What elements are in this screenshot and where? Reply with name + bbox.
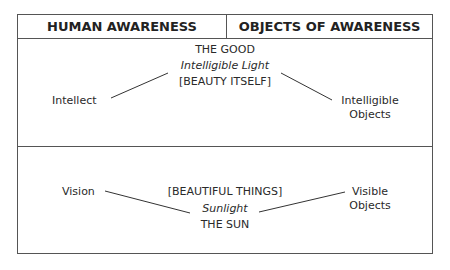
beautiful-things-label: [BEAUTIFUL THINGS]: [160, 185, 290, 199]
visible-objects-line2: Objects: [340, 199, 400, 213]
sunlight-label: Sunlight: [185, 202, 265, 216]
intellect-label: Intellect: [52, 94, 112, 108]
header-objects-of-awareness: OBJECTS OF AWARENESS: [227, 15, 432, 39]
section-divider: [18, 146, 432, 147]
vision-label: Vision: [62, 185, 107, 199]
the-sun-label: THE SUN: [185, 218, 265, 232]
beauty-itself-label: [BEAUTY ITSELF]: [165, 75, 285, 89]
intelligible-objects-line2: Objects: [330, 108, 410, 122]
header-human-awareness: HUMAN AWARENESS: [18, 15, 227, 39]
visible-objects-line1: Visible: [340, 185, 400, 199]
intelligible-light-label: Intelligible Light: [165, 59, 285, 73]
the-good-label: THE GOOD: [175, 43, 275, 57]
intelligible-objects-line1: Intelligible: [330, 94, 410, 108]
